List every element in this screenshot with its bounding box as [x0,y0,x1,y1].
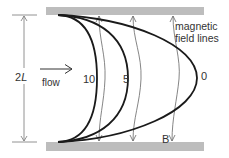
field-lines-label-line1: magnetic [175,20,219,32]
profile-label-5: 5 [123,74,129,85]
field-symbol-b: B [162,134,169,145]
flow-arrow-icon [40,65,72,74]
dimension-variable: L [21,71,27,83]
field-line-1 [99,16,105,141]
field-lines [96,16,179,141]
field-lines-label: magnetic field lines [175,20,219,44]
dimension-label: 2L [15,72,27,83]
profile-label-10: 10 [83,74,95,85]
top-plate [46,7,204,15]
bottom-plate [46,142,204,151]
profile-label-0: 0 [201,71,207,82]
field-lines-label-line2: field lines [175,32,219,44]
field-line-2 [133,16,141,141]
flow-label: flow [42,78,60,88]
